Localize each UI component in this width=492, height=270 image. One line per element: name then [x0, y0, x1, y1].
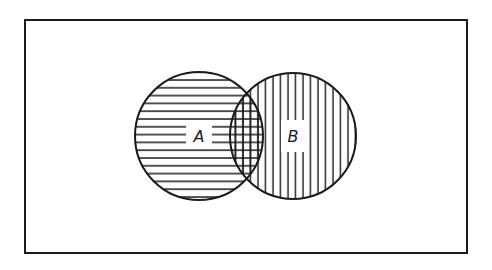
set-b-label: B	[288, 127, 299, 146]
set-a-label: A	[193, 127, 205, 146]
venn-diagram: A B	[0, 0, 492, 270]
